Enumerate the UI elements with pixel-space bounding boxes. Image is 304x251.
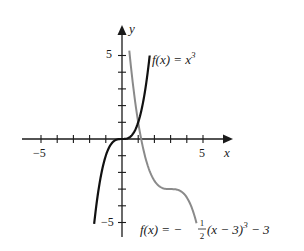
x-tick-label-neg5: −5 xyxy=(33,146,46,160)
x-axis-label: x xyxy=(223,145,230,160)
y-tick-label-5: 5 xyxy=(106,47,112,61)
svg-text:1: 1 xyxy=(200,218,205,228)
cube-function-label: f(x) = x3 xyxy=(152,50,196,67)
y-tick-label-neg5: −5 xyxy=(101,215,114,229)
x-axis-arrow-icon xyxy=(223,135,233,144)
axes xyxy=(22,33,226,237)
svg-text:(x − 3)3 − 3: (x − 3)3 − 3 xyxy=(207,220,270,237)
shifted-cubic-function-label: f(x) = − 1 2 (x − 3)3 − 3 xyxy=(140,218,270,241)
x-tick-label-5: 5 xyxy=(199,146,205,160)
y-axis-arrow-icon xyxy=(118,25,127,35)
svg-text:2: 2 xyxy=(200,231,205,241)
y-axis-label: y xyxy=(127,21,135,36)
function-graph: y x −5 5 5 −5 f(x) = x3 f(x) = − 1 2 (x … xyxy=(0,0,304,251)
svg-text:f(x) = −: f(x) = − xyxy=(140,222,182,237)
